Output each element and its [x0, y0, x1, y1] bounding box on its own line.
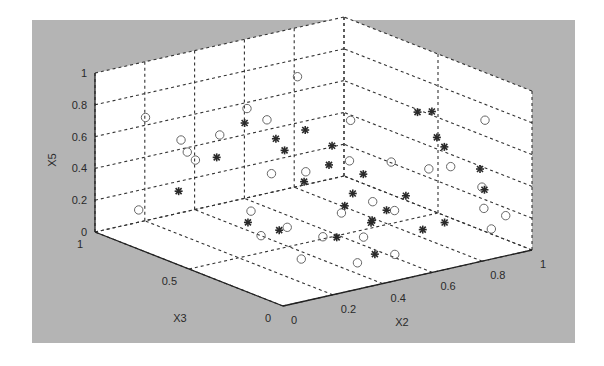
star-marker — [359, 170, 367, 178]
star-marker — [349, 189, 357, 197]
star-marker — [441, 219, 449, 227]
y-tick-label: 1 — [77, 238, 83, 250]
star-marker — [428, 108, 436, 116]
x-tick-label: 0 — [291, 314, 297, 326]
star-marker — [476, 165, 484, 173]
star-marker — [241, 119, 249, 127]
star-marker — [281, 146, 289, 154]
star-marker — [333, 233, 341, 241]
z-axis-label: X5 — [46, 153, 58, 166]
star-marker — [368, 216, 376, 224]
star-marker — [433, 133, 441, 141]
star-marker — [213, 153, 221, 161]
x-tick-label: 0.2 — [341, 303, 356, 315]
star-marker — [328, 142, 336, 150]
x-tick-label: 0.4 — [391, 292, 406, 304]
scatter3d-figure: 00.20.40.60.8100.5100.20.40.60.81 X5 X3 … — [0, 0, 604, 366]
x-tick-label: 0.8 — [490, 269, 505, 281]
z-tick-label: 0.6 — [72, 131, 87, 143]
star-marker — [402, 192, 410, 200]
y-tick-label: 0.5 — [162, 275, 177, 287]
star-marker — [440, 143, 448, 151]
z-tick-label: 0.4 — [72, 162, 87, 174]
x-tick-label: 1 — [540, 258, 546, 270]
star-marker — [272, 135, 280, 143]
y-axis-label: X3 — [173, 312, 186, 324]
star-marker — [383, 206, 391, 214]
z-tick-label: 1 — [81, 67, 87, 79]
star-marker — [300, 178, 308, 186]
x-axis-label: X2 — [395, 316, 408, 328]
star-marker — [244, 218, 252, 226]
star-marker — [325, 161, 333, 169]
star-marker — [341, 202, 349, 210]
star-marker — [371, 250, 379, 258]
z-tick-label: 0 — [81, 226, 87, 238]
z-tick-label: 0.8 — [72, 99, 87, 111]
star-marker — [301, 126, 309, 134]
star-marker — [175, 187, 183, 195]
z-tick-label: 0.2 — [72, 194, 87, 206]
x-tick-label: 0.6 — [440, 280, 455, 292]
star-marker — [480, 186, 488, 194]
star-marker — [414, 108, 422, 116]
star-marker — [275, 226, 283, 234]
y-tick-label: 0 — [265, 312, 271, 324]
star-marker — [419, 226, 427, 234]
